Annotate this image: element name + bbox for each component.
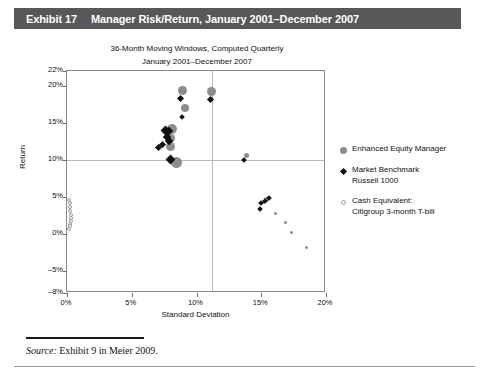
legend-label: Cash Equivalent:Citigroup 3-month T-bill (352, 196, 435, 217)
x-tick-label: 10% (188, 298, 203, 307)
data-point (67, 227, 71, 231)
data-point (177, 95, 184, 102)
y-axis-tick-labels: –8%–5%0%5%10%15%20%22% (36, 70, 63, 292)
gridline-horizontal (67, 160, 324, 161)
legend-marker-icon (338, 144, 352, 155)
legend-item[interactable]: Cash Equivalent:Citigroup 3-month T-bill (338, 196, 486, 217)
x-axis-tick (326, 293, 327, 297)
x-axis-title: Standard Deviation (66, 310, 325, 319)
chart-legend: Enhanced Equity ManagerMarket BenchmarkR… (338, 144, 486, 227)
data-point (305, 246, 308, 249)
exhibit-title: Manager Risk/Return, January 2001–Decemb… (91, 13, 359, 25)
x-tick-label: 15% (253, 298, 268, 307)
y-tick-label: 15% (48, 117, 63, 126)
y-tick-label: –5% (48, 265, 63, 274)
y-axis-title: Return (18, 145, 27, 169)
legend-marker-icon (338, 196, 352, 207)
y-axis-tick (63, 160, 67, 161)
y-axis-tick (63, 71, 67, 72)
y-tick-label: 10% (48, 154, 63, 163)
y-tick-label: 20% (48, 80, 63, 89)
exhibit-number: Exhibit 17 (26, 13, 77, 25)
y-axis-tick (63, 197, 67, 198)
x-tick-label: 20% (317, 298, 332, 307)
gridline-vertical (212, 71, 213, 291)
y-axis-tick (63, 86, 67, 87)
x-axis-tick-labels: 0%5%10%15%20% (66, 296, 325, 308)
data-point (178, 86, 187, 95)
legend-label: Market BenchmarkRussell 1000 (352, 165, 419, 186)
y-tick-label: 5% (52, 191, 63, 200)
legend-marker-icon (338, 165, 352, 176)
data-point (207, 87, 216, 96)
source-divider (26, 337, 144, 339)
legend-label: Enhanced Equity Manager (352, 144, 446, 155)
y-axis-tick (63, 234, 67, 235)
chart-figure: 36-Month Moving Windows, Computed Quarte… (0, 29, 489, 319)
chart-title: 36-Month Moving Windows, Computed Quarte… (66, 44, 328, 53)
exhibit-header-bar: Exhibit 17 Manager Risk/Return, January … (14, 8, 461, 29)
legend-item[interactable]: Enhanced Equity Manager (338, 144, 486, 155)
chart-subtitle: January 2001–December 2007 (66, 57, 328, 66)
data-point (207, 96, 214, 103)
bottom-divider (14, 366, 475, 367)
legend-item[interactable]: Market BenchmarkRussell 1000 (338, 165, 486, 186)
source-label: Source: (26, 345, 57, 356)
plot-area (66, 70, 325, 292)
x-tick-label: 5% (125, 298, 136, 307)
y-tick-label: –8% (48, 287, 63, 296)
source-note: Source: Exhibit 9 in Meier 2009. (26, 345, 158, 356)
data-point (274, 212, 277, 215)
data-point (257, 206, 263, 212)
y-tick-label: 22% (48, 65, 63, 74)
y-tick-label: 0% (52, 228, 63, 237)
data-point (284, 221, 287, 224)
y-axis-tick (63, 123, 67, 124)
y-axis-tick (63, 271, 67, 272)
data-point (290, 231, 293, 234)
x-tick-label: 0% (61, 298, 72, 307)
data-point (181, 104, 189, 112)
data-point (179, 114, 185, 120)
source-text: Exhibit 9 in Meier 2009. (57, 345, 158, 356)
